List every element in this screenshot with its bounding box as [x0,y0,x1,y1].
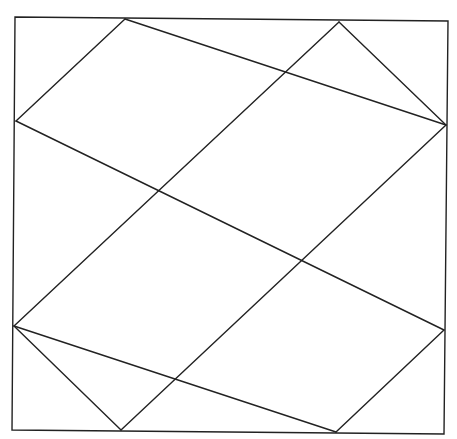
diamond-lattice-diagram [0,0,457,439]
background [0,0,457,439]
